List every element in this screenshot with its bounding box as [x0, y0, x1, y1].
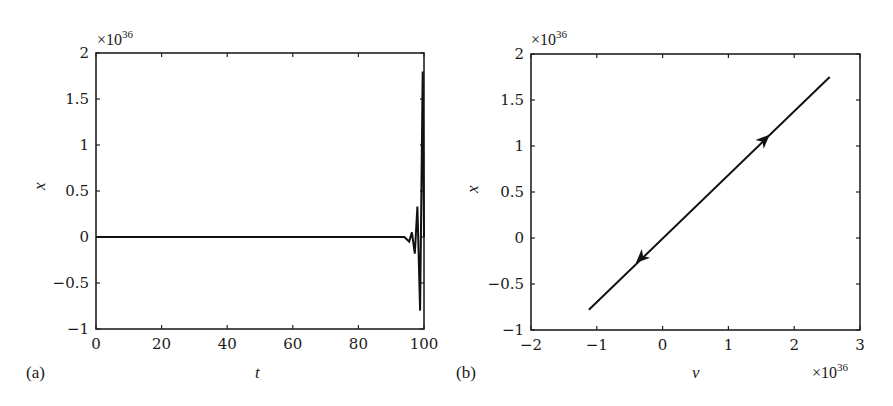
y-axis-label-b: x — [463, 185, 482, 194]
y-tick-label: 2 — [79, 44, 89, 62]
x-tick-label: 2 — [789, 336, 799, 354]
y-tick-label: 0 — [514, 229, 524, 247]
y-tick-label: 0.5 — [500, 183, 524, 201]
y-multiplier-a: ×1036 — [97, 28, 134, 48]
y-tick-label: 2 — [514, 45, 524, 63]
y-tick-label: −1 — [67, 320, 89, 338]
y-tick-label: 0.5 — [65, 182, 89, 200]
y-multiplier-b: ×1036 — [531, 28, 568, 48]
x-tick-label: 3 — [855, 336, 865, 354]
y-tick-label: 1.5 — [65, 90, 89, 108]
panel-label-a: (a) — [26, 363, 45, 382]
y-tick-label: −0.5 — [488, 275, 524, 293]
x-tick-label: 100 — [410, 335, 439, 353]
data-series — [96, 71, 424, 310]
x-tick-label: 80 — [349, 335, 368, 353]
x-tick-label: 1 — [724, 336, 734, 354]
x-tick-label: 20 — [152, 335, 171, 353]
data-series — [589, 77, 830, 310]
x-axis-label-a: t — [255, 363, 261, 382]
plot-frame — [96, 53, 424, 329]
panel-label-b: (b) — [456, 363, 476, 382]
x-tick-label: 0 — [91, 335, 101, 353]
y-tick-label: 1.5 — [500, 91, 524, 109]
figure: 020406080100−1−0.500.511.52 −2−10123−1−0… — [0, 0, 893, 406]
y-axis-label-a: x — [30, 182, 49, 191]
y-tick-label: 1 — [79, 136, 89, 154]
x-tick-label: 40 — [218, 335, 237, 353]
x-multiplier-b: ×1036 — [812, 361, 849, 381]
chart-panel-b: −2−10123−1−0.500.511.52 — [488, 45, 865, 354]
y-tick-label: 1 — [514, 137, 524, 155]
chart-panel-a: 020406080100−1−0.500.511.52 — [53, 44, 439, 353]
y-tick-label: −1 — [502, 321, 524, 339]
x-tick-label: 60 — [283, 335, 302, 353]
x-tick-label: −1 — [586, 336, 608, 354]
x-tick-label: 0 — [658, 336, 668, 354]
y-tick-label: 0 — [79, 228, 89, 246]
x-axis-label-b: ν — [692, 363, 700, 382]
y-tick-label: −0.5 — [53, 274, 89, 292]
